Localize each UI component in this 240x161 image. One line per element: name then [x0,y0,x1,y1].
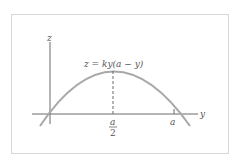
half-a-denominator: 2 [110,128,116,138]
z-axis-label: z [46,33,52,43]
equation-label: z = ky(a − y) [83,59,144,69]
y-axis-label: y [199,109,206,119]
half-a-numerator: a [110,117,115,127]
parabola-diagram: z y z = ky(a − y) a 2 a [0,0,240,161]
a-tick-label: a [170,117,175,127]
